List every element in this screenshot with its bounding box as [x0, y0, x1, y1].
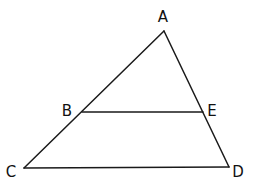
- label-d: D: [232, 163, 244, 181]
- segment-cd: [24, 167, 229, 168]
- segment-ad: [164, 31, 229, 167]
- segment-ac: [24, 31, 164, 168]
- label-e: E: [207, 102, 216, 120]
- label-a: A: [158, 8, 169, 26]
- label-c: C: [6, 163, 16, 181]
- label-b: B: [62, 102, 72, 120]
- triangle-diagram: A B E C D: [0, 0, 257, 183]
